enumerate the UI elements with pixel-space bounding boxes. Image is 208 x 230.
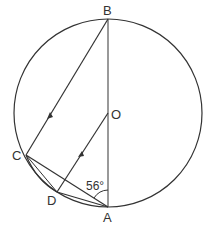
chord-CD-straight bbox=[26, 155, 57, 192]
chord-DA bbox=[57, 192, 108, 207]
circle-diagram: B O A C D 56° bbox=[0, 0, 208, 230]
angle-label: 56° bbox=[86, 179, 104, 193]
chord-BC bbox=[26, 19, 108, 155]
label-C: C bbox=[12, 148, 21, 163]
label-O: O bbox=[111, 107, 121, 122]
label-B: B bbox=[103, 3, 112, 18]
label-D: D bbox=[47, 193, 56, 208]
parallel-arrow-icon bbox=[47, 112, 53, 119]
label-A: A bbox=[103, 210, 112, 225]
